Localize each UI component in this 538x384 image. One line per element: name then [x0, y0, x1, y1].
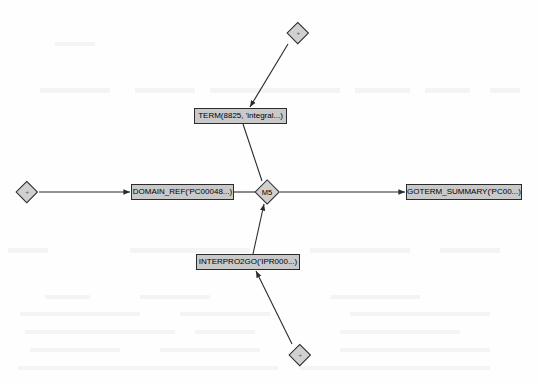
node-domain-ref-label: DOMAIN_REF('PC00048...) [133, 188, 232, 196]
node-goterm-summary[interactable]: GOTERM_SUMMARY('PC00...) [406, 184, 522, 200]
node-diamond-top[interactable]: + [287, 22, 309, 44]
edge-interpro2go-to-m5 [253, 204, 264, 254]
diamond-center-marker: + [299, 354, 302, 357]
node-interpro2go[interactable]: INTERPRO2GO('IPR000...) [196, 254, 300, 270]
node-term[interactable]: TERM(8825, 'integral...) [194, 108, 287, 124]
node-diamond-left[interactable]: + [16, 181, 38, 203]
node-domain-ref[interactable]: DOMAIN_REF('PC00048...) [131, 184, 234, 200]
node-goterm-summary-label: GOTERM_SUMMARY('PC00...) [407, 188, 521, 196]
edge-diamond_bottom-to-interpro2go [256, 271, 292, 344]
node-diamond-bottom[interactable]: + [289, 344, 311, 366]
diamond-center-marker: + [297, 32, 300, 35]
edge-diamond_top-to-term [250, 44, 288, 107]
diamond-center-marker: + [26, 191, 29, 194]
diamond-shape [254, 179, 280, 205]
node-term-label: TERM(8825, 'integral...) [198, 112, 283, 120]
node-m5-diamond[interactable]: M5 [254, 179, 280, 205]
diagram-canvas: TERM(8825, 'integral...) DOMAIN_REF('PC0… [0, 0, 538, 384]
node-interpro2go-label: INTERPRO2GO('IPR000...) [199, 258, 297, 266]
edge-term-to-m5 [243, 124, 262, 181]
